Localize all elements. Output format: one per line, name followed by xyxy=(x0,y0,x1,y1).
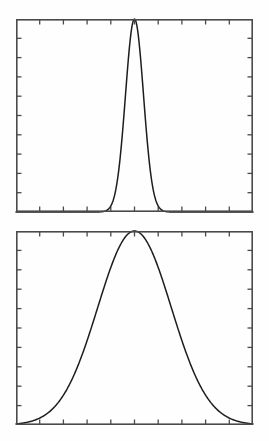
axis-frame-bottom xyxy=(17,232,252,424)
gaussian-curve-narrow xyxy=(16,19,253,212)
gaussian-curve-wide xyxy=(16,231,253,424)
chart-panel-bottom xyxy=(16,231,253,425)
wide-gaussian-plot xyxy=(16,231,253,425)
axis-frame-top xyxy=(17,20,252,211)
chart-panel-top xyxy=(16,19,253,212)
axis-ticks-top-panel xyxy=(16,19,253,212)
narrow-gaussian-plot xyxy=(16,19,253,212)
figure-canvas xyxy=(0,0,269,441)
axis-ticks-bottom-panel xyxy=(16,231,253,425)
